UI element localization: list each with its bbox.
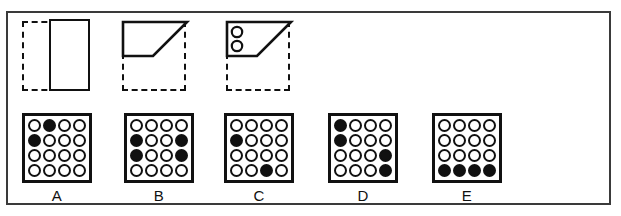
dot-grid[interactable]: [328, 113, 398, 183]
empty-dot-icon: [483, 134, 496, 147]
empty-dot-icon: [260, 119, 273, 132]
dot-grid[interactable]: [224, 113, 294, 183]
stimulus-row: [8, 13, 613, 105]
grid-cell: [229, 163, 244, 178]
filled-dot-icon: [453, 164, 466, 177]
answer-option-label: A: [22, 186, 92, 206]
grid-cell: [482, 148, 497, 163]
empty-dot-icon: [145, 149, 158, 162]
grid-cell: [27, 163, 42, 178]
dot-grid[interactable]: [124, 113, 194, 183]
grid-cell: [244, 148, 259, 163]
grid-cell: [229, 133, 244, 148]
grid-cell: [259, 133, 274, 148]
grid-cell: [274, 163, 289, 178]
empty-dot-icon: [379, 134, 392, 147]
grid-cell: [333, 133, 348, 148]
grid-cell: [259, 163, 274, 178]
grid-cell: [159, 118, 174, 133]
empty-dot-icon: [245, 119, 258, 132]
empty-dot-icon: [58, 134, 71, 147]
figure-frame: ABCDE: [6, 11, 611, 205]
grid-cell: [482, 118, 497, 133]
empty-dot-icon: [483, 149, 496, 162]
filled-dot-icon: [334, 119, 347, 132]
filled-dot-icon: [230, 134, 243, 147]
empty-dot-icon: [275, 149, 288, 162]
filled-dot-icon: [379, 149, 392, 162]
grid-cell: [144, 148, 159, 163]
shape-dot-2: [232, 41, 242, 51]
grid-cell: [482, 133, 497, 148]
empty-dot-icon: [453, 134, 466, 147]
answer-option-a[interactable]: A: [22, 113, 92, 206]
grid-cell: [42, 163, 57, 178]
filled-dot-icon: [175, 149, 188, 162]
filled-dot-icon: [468, 164, 481, 177]
grid-cell: [244, 133, 259, 148]
trapezoid-icon: [120, 19, 190, 95]
grid-cell: [27, 133, 42, 148]
grid-cell: [348, 148, 363, 163]
stimulus-item-2: [122, 21, 186, 91]
empty-dot-icon: [468, 134, 481, 147]
empty-dot-icon: [245, 164, 258, 177]
empty-dot-icon: [245, 149, 258, 162]
dot-grid[interactable]: [432, 113, 502, 183]
dot-grid[interactable]: [22, 113, 92, 183]
grid-cell: [174, 148, 189, 163]
grid-cell: [452, 163, 467, 178]
answer-option-b[interactable]: B: [124, 113, 194, 206]
empty-dot-icon: [130, 164, 143, 177]
grid-cell: [57, 163, 72, 178]
grid-cell: [144, 133, 159, 148]
answer-option-c[interactable]: C: [224, 113, 294, 206]
grid-cell: [42, 148, 57, 163]
answer-option-d[interactable]: D: [328, 113, 398, 206]
empty-dot-icon: [349, 134, 362, 147]
trapezoid-with-dots-icon: [224, 19, 294, 95]
filled-dot-icon: [175, 134, 188, 147]
stimulus-item-3: [226, 21, 290, 91]
filled-dot-icon: [130, 134, 143, 147]
grid-cell: [274, 148, 289, 163]
empty-dot-icon: [260, 149, 273, 162]
grid-cell: [482, 163, 497, 178]
grid-cell: [129, 163, 144, 178]
grid-cell: [378, 118, 393, 133]
empty-dot-icon: [28, 149, 41, 162]
grid-cell: [159, 148, 174, 163]
filled-dot-icon: [334, 134, 347, 147]
grid-cell: [259, 118, 274, 133]
empty-dot-icon: [73, 149, 86, 162]
empty-dot-icon: [349, 164, 362, 177]
grid-cell: [452, 118, 467, 133]
grid-cell: [274, 133, 289, 148]
empty-dot-icon: [230, 164, 243, 177]
empty-dot-icon: [349, 119, 362, 132]
grid-cell: [57, 118, 72, 133]
grid-cell: [129, 148, 144, 163]
empty-dot-icon: [145, 164, 158, 177]
grid-cell: [72, 163, 87, 178]
grid-cell: [159, 163, 174, 178]
filled-dot-icon: [438, 164, 451, 177]
grid-cell: [174, 133, 189, 148]
grid-cell: [363, 148, 378, 163]
filled-dot-icon: [28, 134, 41, 147]
grid-cell: [42, 133, 57, 148]
answer-option-label: D: [328, 186, 398, 206]
answer-option-label: B: [124, 186, 194, 206]
empty-dot-icon: [175, 119, 188, 132]
grid-cell: [274, 118, 289, 133]
empty-dot-icon: [28, 164, 41, 177]
grid-cell: [174, 163, 189, 178]
empty-dot-icon: [379, 119, 392, 132]
empty-dot-icon: [468, 149, 481, 162]
answer-option-label: C: [224, 186, 294, 206]
filled-dot-icon: [483, 164, 496, 177]
empty-dot-icon: [275, 134, 288, 147]
empty-dot-icon: [438, 134, 451, 147]
grid-cell: [348, 133, 363, 148]
answer-option-e[interactable]: E: [432, 113, 502, 206]
